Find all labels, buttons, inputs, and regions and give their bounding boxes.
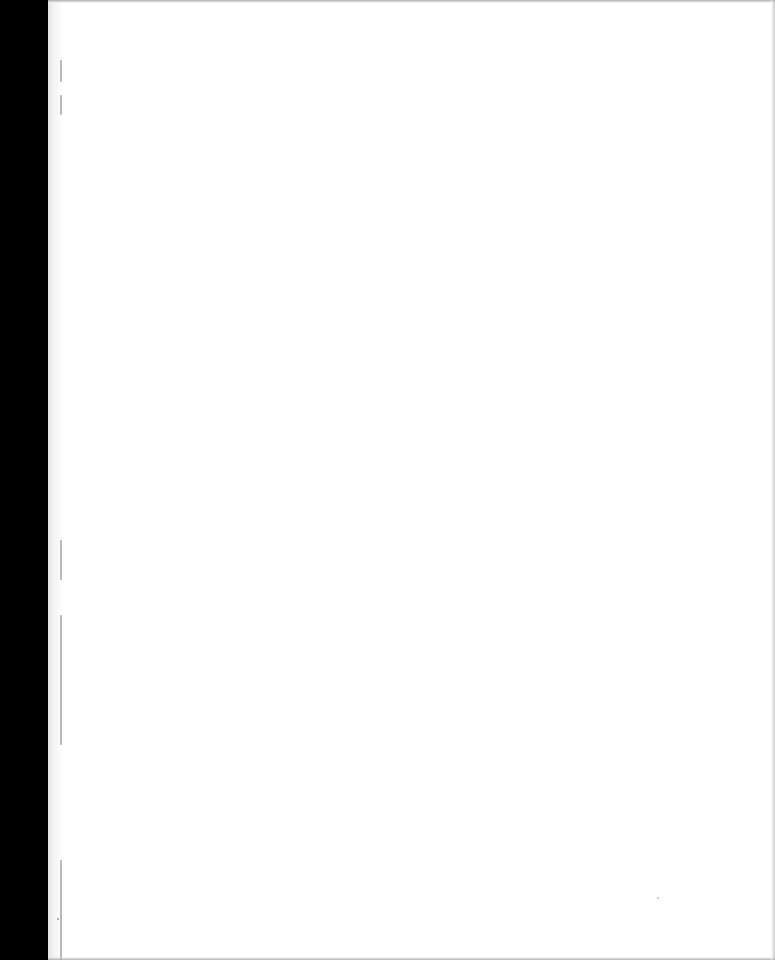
binding-mark (60, 60, 62, 82)
binding-mark (60, 95, 62, 115)
scan-black-margin (0, 0, 48, 960)
page-body (64, 3, 771, 957)
page-binding-edge (48, 0, 64, 960)
scanned-page (0, 0, 775, 960)
scan-speck (657, 897, 659, 899)
scan-speck (57, 918, 59, 920)
binding-mark (60, 860, 62, 960)
binding-mark (60, 615, 62, 745)
binding-mark (60, 540, 62, 580)
page-right-edge (771, 0, 775, 960)
